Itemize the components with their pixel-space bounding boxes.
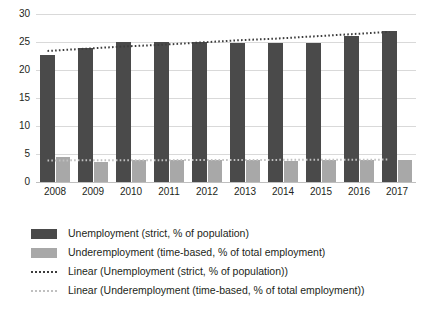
x-axis-tick: 2008 bbox=[44, 186, 66, 198]
y-axis-tick: 5 bbox=[24, 149, 30, 159]
y-axis-tick: 20 bbox=[19, 65, 30, 75]
x-axis: 2008200920102011201220132014201520162017 bbox=[36, 186, 416, 206]
legend-label-linear-underemployment: Linear (Underemployment (time-based, % o… bbox=[68, 284, 364, 297]
chart-container: 30 25 20 15 10 5 0 200820092010201120122… bbox=[0, 0, 428, 316]
trendline-underemployment bbox=[48, 160, 390, 161]
legend-swatch-unemployment-icon bbox=[30, 229, 58, 239]
x-axis-tick: 2014 bbox=[272, 186, 294, 198]
legend-item-unemployment: Unemployment (strict, % of population) bbox=[30, 224, 422, 243]
x-axis-tick: 2015 bbox=[310, 186, 332, 198]
y-axis-tick: 10 bbox=[19, 121, 30, 131]
plot-wrapper: 30 25 20 15 10 5 0 200820092010201120122… bbox=[0, 0, 428, 218]
chart-legend: Unemployment (strict, % of population) U… bbox=[30, 224, 422, 300]
gridline bbox=[36, 182, 416, 183]
legend-label-linear-unemployment: Linear (Unemployment (strict, % of popul… bbox=[68, 265, 288, 278]
x-axis-tick: 2013 bbox=[234, 186, 256, 198]
y-axis-tick: 25 bbox=[19, 37, 30, 47]
y-axis-tick: 0 bbox=[24, 177, 30, 187]
y-axis-tick: 30 bbox=[19, 9, 30, 19]
plot-area bbox=[36, 14, 416, 182]
legend-dotted-line-underemployment-icon bbox=[30, 290, 58, 292]
legend-item-linear-underemployment: Linear (Underemployment (time-based, % o… bbox=[30, 281, 422, 300]
legend-dotted-line-unemployment-icon bbox=[30, 271, 58, 273]
y-axis: 30 25 20 15 10 5 0 bbox=[0, 0, 34, 218]
x-axis-tick: 2009 bbox=[82, 186, 104, 198]
legend-item-linear-unemployment: Linear (Unemployment (strict, % of popul… bbox=[30, 262, 422, 281]
legend-label-underemployment: Underemployment (time-based, % of total … bbox=[68, 246, 325, 259]
x-axis-tick: 2010 bbox=[120, 186, 142, 198]
x-axis-tick: 2017 bbox=[386, 186, 408, 198]
trendline-unemployment bbox=[48, 32, 390, 51]
y-axis-tick: 15 bbox=[19, 93, 30, 103]
x-axis-tick: 2011 bbox=[158, 186, 180, 198]
legend-swatch-underemployment-icon bbox=[30, 248, 58, 258]
legend-label-unemployment: Unemployment (strict, % of population) bbox=[68, 227, 249, 240]
x-axis-tick: 2016 bbox=[348, 186, 370, 198]
legend-item-underemployment: Underemployment (time-based, % of total … bbox=[30, 243, 422, 262]
trendlines-layer bbox=[36, 14, 416, 182]
x-axis-tick: 2012 bbox=[196, 186, 218, 198]
